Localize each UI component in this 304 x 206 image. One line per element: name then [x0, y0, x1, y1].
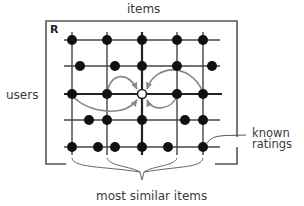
most-similar-brace: [72, 158, 203, 180]
users-axis-label: users: [6, 89, 38, 101]
known-ratings-label: known ratings: [252, 128, 292, 150]
known-ratings-callout: [207, 135, 246, 143]
known-ratings-label-line2: ratings: [252, 139, 292, 150]
items-axis-label: items: [127, 3, 160, 15]
item-similarity-diagram: [0, 0, 304, 206]
matrix-label: R: [50, 24, 58, 35]
target-rating-circle: [138, 90, 147, 99]
similarity-arrows: [72, 70, 203, 111]
most-similar-items-label: most similar items: [96, 190, 207, 202]
